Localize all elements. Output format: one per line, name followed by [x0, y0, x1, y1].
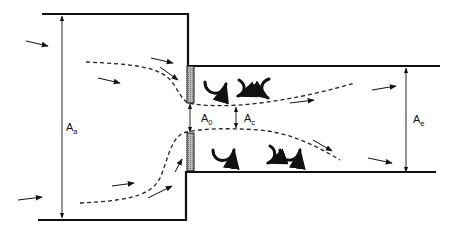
- flow-arrow: [18, 197, 42, 200]
- orifice-flow-diagram: Aa A0 Ac Ae: [0, 0, 458, 235]
- flow-arrow: [98, 78, 120, 83]
- label-Ae: Ae: [413, 113, 425, 128]
- streamline-bottom: [80, 129, 340, 203]
- dimension-lines: [62, 16, 406, 218]
- upstream-wall-bottom: [38, 172, 436, 220]
- flow-arrow: [290, 100, 314, 103]
- pipe-walls: [38, 14, 440, 220]
- eddy-icon: [205, 82, 226, 93]
- flow-arrow: [313, 140, 332, 151]
- label-Aa: Aa: [66, 121, 78, 136]
- flow-arrow: [26, 41, 48, 46]
- streamline-top: [86, 62, 355, 106]
- orifice-plate-top: [187, 66, 194, 103]
- flow-arrow: [148, 186, 172, 198]
- eddies-top: [205, 79, 269, 98]
- flow-arrow: [372, 86, 396, 90]
- eddy-icon: [262, 79, 269, 98]
- flow-arrow: [151, 58, 173, 63]
- eddy-icon: [238, 80, 244, 96]
- upstream-wall-top: [42, 14, 440, 66]
- eddy-icon: [280, 150, 300, 160]
- eddies-bottom: [213, 146, 300, 163]
- flow-arrow: [112, 183, 134, 186]
- eddy-icon: [268, 146, 275, 163]
- streamlines: [80, 62, 355, 203]
- label-Ac: Ac: [244, 112, 255, 127]
- flow-arrow: [368, 158, 392, 163]
- label-A0: A0: [201, 112, 213, 127]
- eddy-icon: [213, 150, 234, 161]
- orifice-plate-bottom: [187, 133, 194, 171]
- flow-arrow: [175, 159, 182, 172]
